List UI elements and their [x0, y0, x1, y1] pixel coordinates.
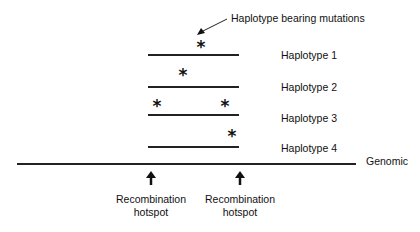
genomic-line [17, 163, 356, 165]
hotspot-2-line2: hotspot [195, 206, 285, 219]
hotspot-arrow-icon [146, 171, 156, 185]
mutation-star-icon: * [226, 129, 238, 143]
annotation-arrow-icon [197, 19, 227, 35]
haplotype-4-line [148, 146, 239, 148]
mutation-star-icon: * [195, 40, 207, 54]
haplotype-recombination-diagram: Haplotype bearing mutations * Haplotype … [0, 0, 420, 232]
haplotype-4-label: Haplotype 4 [281, 142, 337, 154]
hotspot-arrow-icon [235, 171, 245, 185]
hotspot-2-label: Recombination hotspot [195, 193, 285, 219]
haplotype-2-label: Haplotype 2 [281, 81, 337, 93]
mutation-star-icon: * [177, 68, 189, 82]
hotspot-1-label: Recombination hotspot [106, 193, 196, 219]
haplotype-1-line [148, 54, 239, 56]
annotation-label: Haplotype bearing mutations [231, 12, 365, 24]
hotspot-1-line1: Recombination [106, 193, 196, 206]
hotspot-2-line1: Recombination [195, 193, 285, 206]
haplotype-3-label: Haplotype 3 [281, 112, 337, 124]
mutation-star-icon: * [151, 99, 163, 113]
hotspot-1-line2: hotspot [106, 206, 196, 219]
haplotype-1-label: Haplotype 1 [281, 49, 337, 61]
mutation-star-icon: * [219, 99, 231, 113]
haplotype-3-line [148, 114, 239, 116]
genomic-label: Genomic [366, 155, 408, 167]
haplotype-2-line [148, 86, 239, 88]
